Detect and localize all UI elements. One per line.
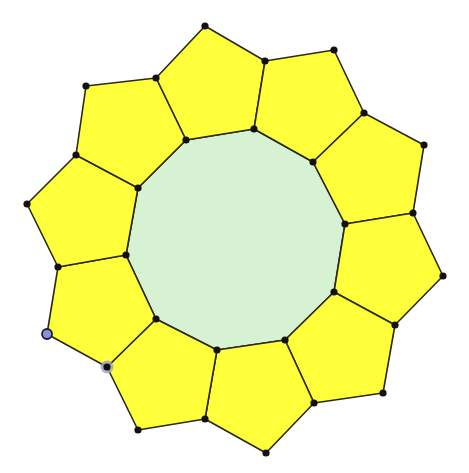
vertex-point[interactable] (152, 315, 159, 322)
vertex-point[interactable] (310, 399, 317, 406)
vertex-point[interactable] (182, 136, 189, 143)
vertex-point[interactable] (82, 82, 89, 89)
vertex-point[interactable] (439, 272, 446, 279)
vertex-point[interactable] (122, 251, 129, 258)
vertex-point[interactable] (134, 184, 141, 191)
vertex-point[interactable] (360, 109, 367, 116)
vertex-point[interactable] (72, 151, 79, 158)
vertex-point[interactable] (330, 46, 337, 53)
vertex-point[interactable] (201, 22, 208, 29)
vertex-point[interactable] (330, 288, 337, 295)
vertex-point[interactable] (409, 209, 416, 216)
vertex-point[interactable] (103, 363, 110, 370)
vertex-point[interactable] (281, 336, 288, 343)
vertex-point[interactable] (54, 263, 61, 270)
vertex-point[interactable] (379, 389, 386, 396)
vertex-point[interactable] (262, 449, 269, 456)
selected-vertex-point[interactable] (42, 329, 52, 339)
vertex-point[interactable] (341, 220, 348, 227)
vertex-point[interactable] (261, 57, 268, 64)
vertex-point[interactable] (23, 200, 30, 207)
vertex-point[interactable] (309, 158, 316, 165)
vertex-point[interactable] (134, 426, 141, 433)
decagon-pentagon-ring-diagram (0, 0, 469, 473)
vertex-point[interactable] (152, 74, 159, 81)
vertex-point[interactable] (250, 125, 257, 132)
vertex-point[interactable] (420, 141, 427, 148)
vertex-point[interactable] (213, 346, 220, 353)
vertex-point[interactable] (201, 415, 208, 422)
vertex-point[interactable] (391, 321, 398, 328)
